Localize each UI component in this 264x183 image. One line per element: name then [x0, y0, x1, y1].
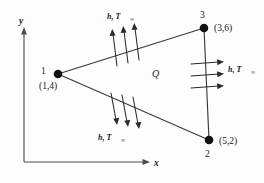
node-1-group: 1 (1,4) [39, 66, 62, 92]
element-edge-right [204, 28, 209, 140]
node-1-coordinate: (1,4) [39, 81, 57, 92]
node-1-dot [54, 70, 63, 79]
bc-label-right: h, T [228, 65, 242, 74]
node-3-number: 3 [200, 10, 205, 20]
node-2-group: 2 (5,2) [205, 136, 238, 159]
convection-arrow-top-1 [110, 29, 117, 66]
bc-label-top: h, T [107, 12, 121, 21]
y-axis-label: y [18, 16, 24, 26]
convection-arrows-right: h, T ∞ [191, 59, 255, 89]
triangular-element-diagram: y x 1 (1,4) 2 (5,2) 3 (3,6) [0, 0, 264, 183]
node-1-number: 1 [41, 66, 46, 76]
x-axis-label: x [153, 158, 159, 168]
element-triangle [58, 28, 209, 140]
node-2-dot [205, 136, 214, 145]
bc-label-bottom: h, T [98, 133, 112, 142]
element-edge-bottom [58, 74, 209, 140]
y-axis-arrowhead [21, 27, 27, 35]
bc-sublabel-bottom: ∞ [121, 137, 125, 143]
bc-sublabel-top: ∞ [130, 16, 134, 22]
element-edge-top [58, 28, 204, 74]
convection-arrow-top-2 [121, 26, 128, 63]
figure-root: y x 1 (1,4) 2 (5,2) 3 (3,6) [0, 0, 264, 183]
node-3-group: 3 (3,6) [200, 10, 233, 34]
convection-arrow-right-1 [191, 59, 224, 65]
node-3-dot [200, 24, 209, 33]
coordinate-axes: y x [18, 16, 159, 168]
convection-arrow-bottom-3 [133, 97, 141, 129]
convection-arrow-top-3 [132, 23, 139, 60]
convection-arrow-right-2 [191, 71, 224, 77]
convection-arrow-bottom-1 [111, 93, 119, 125]
convection-arrow-right-3 [191, 83, 224, 89]
bc-sublabel-right: ∞ [251, 69, 255, 75]
heat-source-label: Q [152, 68, 160, 79]
node-3-coordinate: (3,6) [214, 23, 232, 34]
x-axis-arrowhead [143, 159, 151, 165]
convection-arrow-bottom-2 [122, 95, 130, 127]
convection-arrows-top: h, T ∞ [107, 12, 139, 66]
node-2-coordinate: (5,2) [219, 136, 237, 147]
node-2-number: 2 [205, 149, 210, 159]
